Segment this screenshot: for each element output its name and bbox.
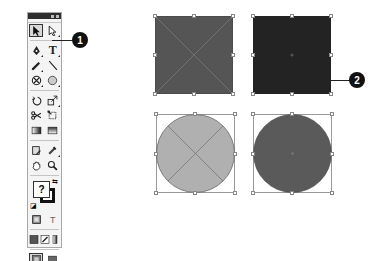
eyedropper-tool[interactable] bbox=[46, 144, 60, 157]
divider bbox=[30, 175, 59, 176]
resize-handle[interactable] bbox=[153, 53, 157, 57]
more-tools-indicator bbox=[41, 70, 43, 72]
normal-view-icon bbox=[31, 254, 42, 261]
circle-light-gray[interactable] bbox=[156, 114, 235, 193]
fill-swatch[interactable]: ? bbox=[33, 181, 50, 198]
formatting-affects-container[interactable] bbox=[29, 213, 43, 226]
note-icon bbox=[31, 145, 42, 156]
apply-gradient-button[interactable] bbox=[40, 233, 50, 246]
resize-handle[interactable] bbox=[329, 53, 333, 57]
fill-label: ? bbox=[38, 184, 44, 195]
magnifier-icon bbox=[47, 160, 58, 171]
line-icon bbox=[47, 60, 58, 71]
resize-handle[interactable] bbox=[192, 14, 196, 18]
resize-handle[interactable] bbox=[330, 112, 334, 116]
preview-view-icon bbox=[47, 254, 58, 261]
resize-handle[interactable] bbox=[231, 14, 235, 18]
more-tools-indicator bbox=[58, 55, 60, 57]
rotate-tool[interactable] bbox=[29, 94, 43, 107]
fill-stroke-swatches: ? ⇆ ◪ bbox=[28, 178, 61, 210]
resize-handle[interactable] bbox=[154, 112, 158, 116]
selection-tool[interactable] bbox=[29, 24, 43, 37]
tool-row bbox=[28, 93, 61, 108]
divider bbox=[30, 90, 59, 91]
tool-row bbox=[28, 232, 61, 247]
gradient-swatch-tool[interactable] bbox=[29, 124, 43, 137]
preview-view-button[interactable] bbox=[46, 253, 60, 261]
resize-handle[interactable] bbox=[233, 191, 237, 195]
type-t-icon: T bbox=[49, 43, 57, 58]
resize-handle[interactable] bbox=[329, 92, 333, 96]
free-transform-tool[interactable] bbox=[46, 109, 60, 122]
tools-panel: T bbox=[27, 12, 62, 248]
apply-none-button[interactable] bbox=[50, 233, 60, 246]
resize-handle[interactable] bbox=[330, 191, 334, 195]
square-mid-gray-graphic bbox=[155, 16, 233, 94]
resize-handle[interactable] bbox=[251, 191, 255, 195]
hand-icon bbox=[31, 160, 42, 171]
resize-handle[interactable] bbox=[153, 14, 157, 18]
pen-tool[interactable] bbox=[29, 44, 43, 57]
resize-handle[interactable] bbox=[290, 112, 294, 116]
hollow-arrow-cursor-icon bbox=[47, 25, 58, 36]
ellipse-icon bbox=[47, 75, 58, 86]
resize-handle[interactable] bbox=[192, 92, 196, 96]
gradient-feather-icon bbox=[47, 125, 58, 136]
collapse-panel-icon[interactable] bbox=[51, 15, 54, 18]
eyedropper-icon bbox=[47, 145, 58, 156]
pencil-icon bbox=[31, 60, 42, 71]
resize-handle[interactable] bbox=[233, 152, 237, 156]
resize-handle[interactable] bbox=[329, 14, 333, 18]
resize-handle[interactable] bbox=[153, 92, 157, 96]
divider bbox=[30, 140, 59, 141]
resize-handle[interactable] bbox=[251, 92, 255, 96]
line-tool[interactable] bbox=[46, 59, 60, 72]
square-dark-graphic bbox=[253, 16, 331, 94]
color-swatch-icon bbox=[29, 234, 39, 245]
resize-handle[interactable] bbox=[231, 53, 235, 57]
resize-handle[interactable] bbox=[290, 92, 294, 96]
frame-x-icon bbox=[31, 75, 42, 86]
gradient-swatch-icon bbox=[31, 125, 42, 136]
close-panel-icon[interactable] bbox=[56, 15, 59, 18]
gradient-bar-icon bbox=[50, 234, 60, 245]
scissors-tool[interactable] bbox=[29, 109, 43, 122]
resize-handle[interactable] bbox=[233, 112, 237, 116]
apply-color-button[interactable] bbox=[29, 233, 39, 246]
resize-handle[interactable] bbox=[193, 191, 197, 195]
swap-fill-stroke-icon[interactable]: ⇆ bbox=[52, 178, 58, 186]
resize-handle[interactable] bbox=[290, 14, 294, 18]
circle-dark-gray[interactable] bbox=[253, 114, 332, 193]
pencil-tool[interactable] bbox=[29, 59, 43, 72]
ellipse-tool[interactable] bbox=[46, 74, 60, 87]
type-tool[interactable]: T bbox=[46, 44, 60, 57]
hand-tool[interactable] bbox=[29, 159, 43, 172]
square-mid-gray[interactable] bbox=[155, 16, 233, 94]
note-tool[interactable] bbox=[29, 144, 43, 157]
gradient-feather-tool[interactable] bbox=[46, 124, 60, 137]
formatting-affects-text[interactable]: T bbox=[46, 213, 60, 226]
callout-1-badge: 1 bbox=[72, 32, 88, 48]
tool-row: T bbox=[28, 43, 61, 58]
square-dark[interactable] bbox=[253, 16, 331, 94]
default-fill-stroke-icon[interactable]: ◪ bbox=[30, 202, 37, 210]
resize-handle[interactable] bbox=[251, 112, 255, 116]
resize-handle[interactable] bbox=[193, 112, 197, 116]
resize-handle[interactable] bbox=[154, 191, 158, 195]
resize-handle[interactable] bbox=[290, 191, 294, 195]
zoom-tool[interactable] bbox=[46, 159, 60, 172]
rectangle-frame-tool[interactable] bbox=[29, 74, 43, 87]
resize-handle[interactable] bbox=[231, 92, 235, 96]
text-t-icon: T bbox=[50, 215, 56, 225]
resize-handle[interactable] bbox=[251, 152, 255, 156]
direct-selection-tool[interactable] bbox=[46, 24, 60, 37]
resize-handle[interactable] bbox=[154, 152, 158, 156]
callout-1-leader bbox=[52, 40, 73, 41]
divider bbox=[30, 229, 59, 230]
resize-handle[interactable] bbox=[330, 152, 334, 156]
callout-2-leader bbox=[331, 80, 351, 81]
resize-handle[interactable] bbox=[251, 14, 255, 18]
scale-tool[interactable] bbox=[46, 94, 60, 107]
resize-handle[interactable] bbox=[251, 53, 255, 57]
normal-view-button[interactable] bbox=[29, 253, 43, 261]
